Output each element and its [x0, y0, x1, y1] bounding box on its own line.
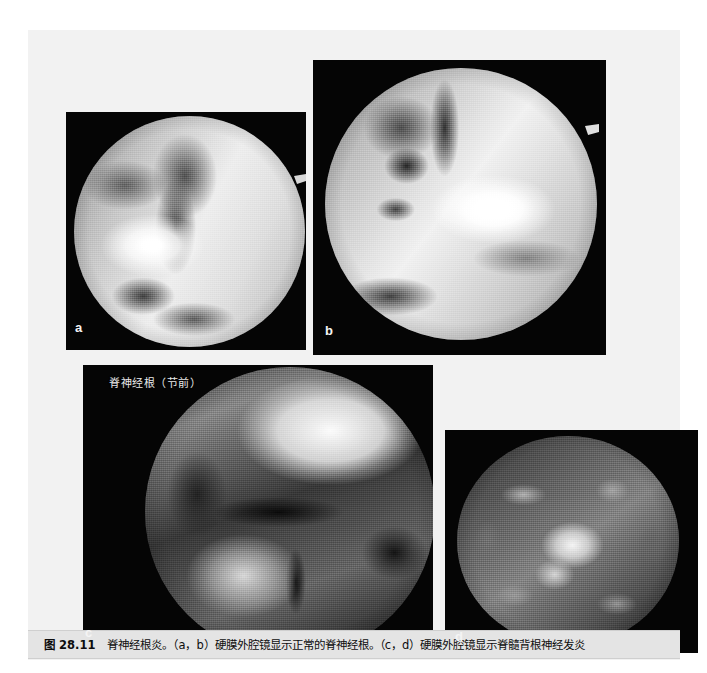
endoscopic-image-c	[145, 367, 433, 655]
figure-panel-a: a	[66, 112, 306, 350]
instrument-tip-icon-b	[585, 124, 599, 135]
figure-panel-c: 脊神经根（节前） c	[83, 365, 433, 655]
page-sheet: a b 脊神经根（节前） c d	[28, 30, 680, 660]
endoscopic-image-d	[457, 436, 679, 646]
panel-label-b: b	[325, 324, 333, 337]
instrument-tip-icon-a	[294, 174, 306, 184]
figure-caption: 图 28.11脊神经根炎。（a，b）硬膜外腔镜显示正常的脊神经根。（c，d）硬膜…	[28, 637, 585, 653]
panel-c-annotation-label: 脊神经根（节前）	[109, 377, 201, 391]
figure-panel-b: b	[313, 60, 606, 355]
panel-label-d: d	[455, 630, 463, 643]
endoscopic-image-b	[325, 68, 597, 340]
panel-label-c: c	[85, 626, 92, 639]
figure-caption-text: 脊神经根炎。（a，b）硬膜外腔镜显示正常的脊神经根。（c，d）硬膜外腔镜显示脊髓…	[107, 638, 585, 652]
figure-panel-d: d	[445, 430, 698, 653]
figure-caption-bar: 图 28.11脊神经根炎。（a，b）硬膜外腔镜显示正常的脊神经根。（c，d）硬膜…	[28, 630, 680, 659]
endoscopic-image-a	[74, 116, 305, 347]
panel-label-a: a	[75, 321, 82, 334]
